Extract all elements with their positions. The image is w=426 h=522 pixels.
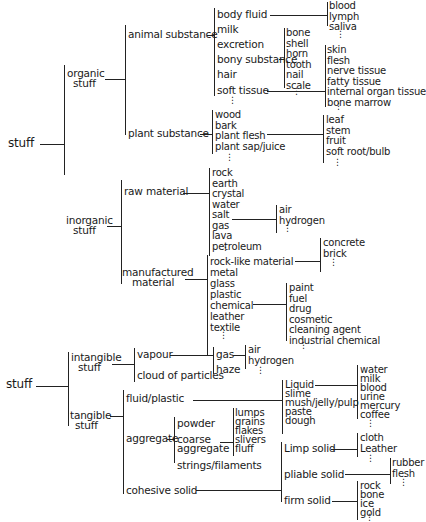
root-stuff-1: stuff	[8, 138, 34, 149]
ellipsis: ⋮	[334, 104, 338, 108]
node: earth	[212, 178, 238, 189]
bracket	[209, 168, 210, 256]
node: salt	[212, 209, 229, 220]
list-chemical-children: paint fuel drug cosmetic cleaning agent …	[289, 283, 380, 346]
bracket	[357, 433, 358, 457]
node-manufactured-2: material	[132, 277, 174, 288]
ellipsis: ⋮	[366, 421, 370, 425]
ellipsis: ⋮	[256, 368, 260, 372]
leaf: soft root/bulb	[326, 146, 390, 157]
list-manufactured-items: rock-like material metal glass plastic c…	[210, 256, 293, 333]
node-limp-solid: Limp solid	[284, 443, 335, 454]
connector	[112, 364, 134, 365]
connector	[196, 490, 281, 491]
bracket	[213, 347, 214, 374]
leaf: fruit	[326, 135, 346, 146]
leaf: bone	[286, 27, 310, 38]
connector	[105, 79, 125, 80]
list-pliable-children: rubber flesh	[392, 458, 424, 479]
node-cloud-of-particles: cloud of particles	[137, 370, 224, 381]
node-strings-filaments: strings/filaments	[177, 460, 262, 471]
bracket	[282, 380, 283, 434]
connector	[110, 416, 123, 417]
node-organic-2: stuff	[73, 78, 96, 89]
connector	[185, 279, 207, 280]
leaf: cloth	[360, 432, 384, 443]
list-plant-items: wood bark plant flesh plant sap/juice	[215, 110, 285, 152]
node-fluid-plastic: fluid/plastic	[126, 393, 184, 404]
node-soft-tissue: soft tissue	[217, 85, 269, 96]
bracket	[123, 390, 124, 494]
leaf: nail	[286, 69, 303, 80]
list-limp-children: cloth Leather	[360, 433, 397, 454]
leaf: fluff	[235, 443, 254, 454]
connector	[315, 385, 357, 386]
ellipsis: ⋮	[221, 245, 225, 249]
leaf: leaf	[326, 114, 344, 125]
connector	[167, 439, 174, 440]
list-soft-tissue-children: skin flesh nerve tissue fatty tissue int…	[327, 45, 426, 108]
leaf-lymph: lymph	[329, 11, 359, 22]
ellipsis: ⋮	[366, 456, 370, 460]
leaf: concrete	[323, 237, 365, 248]
node-coarse-2: aggregate	[177, 443, 229, 454]
bracket	[134, 348, 135, 382]
node: plastic	[210, 289, 241, 300]
connector	[220, 442, 233, 443]
leaf: internal organ tissue	[327, 86, 426, 97]
leaf: fatty tissue	[327, 76, 381, 87]
bracket	[64, 65, 65, 175]
leaf: dough	[285, 415, 316, 426]
node-pliable-solid: pliable solid	[284, 469, 344, 480]
connector	[331, 449, 357, 450]
list-plant-flesh-children: leaf stem fruit soft root/bulb	[326, 115, 390, 157]
node: leather	[210, 311, 244, 322]
node: metal	[210, 267, 238, 278]
connector	[267, 91, 325, 92]
list-rocklike-children: concrete brick	[323, 238, 365, 259]
bracket	[125, 25, 126, 135]
leaf: air	[248, 344, 260, 355]
leaf: paint	[289, 282, 314, 293]
leaf: fuel	[289, 293, 307, 304]
connector	[295, 261, 320, 262]
list-liquid-children: water milk blood urine mercury coffee	[360, 365, 400, 419]
node-wood: wood	[215, 109, 241, 120]
node-bark: bark	[215, 120, 237, 131]
leaf: cleaning agent	[289, 324, 361, 335]
connector	[183, 193, 209, 194]
leaf-blood: blood	[329, 0, 356, 11]
leaf: Leather	[360, 443, 397, 454]
node-haze: haze	[216, 364, 240, 375]
ellipsis: ⋮	[283, 226, 287, 230]
node: crystal	[212, 188, 244, 199]
node-inorganic-2: stuff	[73, 225, 96, 236]
leaf: skin	[327, 44, 346, 55]
node-gas: gas	[212, 220, 229, 231]
root-stuff-2: stuff	[6, 379, 32, 390]
node: rock	[212, 167, 233, 178]
node-rock-like: rock-like material	[210, 256, 293, 267]
ellipsis: ⋮	[299, 343, 303, 347]
connector	[36, 386, 68, 387]
ellipsis: ⋮	[399, 480, 403, 484]
ellipsis: ⋮	[365, 515, 369, 519]
bracket	[174, 417, 175, 463]
leaf: hydrogen	[248, 355, 294, 366]
connector	[233, 355, 245, 356]
leaf: rubber	[392, 457, 424, 468]
connector	[193, 400, 282, 401]
node-intangible-2: stuff	[78, 362, 101, 373]
leaf: nerve tissue	[327, 65, 386, 76]
node-body-fluid: body fluid	[217, 9, 267, 20]
connector	[40, 144, 64, 145]
node-firm-solid: firm solid	[284, 495, 331, 506]
connector	[200, 134, 212, 135]
node-vapour: vapour	[137, 349, 173, 360]
bracket	[207, 255, 208, 355]
connector	[332, 501, 357, 502]
connector	[345, 474, 390, 475]
connector	[207, 35, 214, 36]
bracket	[276, 205, 277, 233]
list-bony-children: bone shell horn tooth nail scale	[286, 28, 311, 91]
